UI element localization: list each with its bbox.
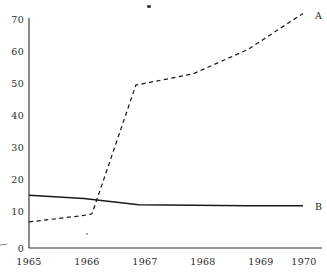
chart-canvas — [0, 0, 327, 274]
y-tick-label-50: 50 — [2, 78, 24, 89]
series-b-line — [29, 195, 303, 205]
line-chart: 70 60 50 40 30 20 10 0 1965 1966 1967 19… — [0, 0, 327, 274]
x-tick-label-1965: 1965 — [9, 256, 49, 267]
y-tick-label-40: 40 — [2, 110, 24, 121]
x-tick-label-1970: 1970 — [284, 256, 324, 267]
x-tick-label-1967: 1967 — [125, 256, 165, 267]
x-tick-label-1968: 1968 — [183, 256, 223, 267]
x-tick-label-1969: 1969 — [241, 256, 281, 267]
series-b-label: B — [315, 201, 322, 212]
y-tick-label-60: 60 — [2, 46, 24, 57]
y-tick-label-20: 20 — [2, 174, 24, 185]
y-tick-label-30: 30 — [2, 142, 24, 153]
y-tick-label-0: 0 — [2, 243, 24, 254]
x-tick-label-1966: 1966 — [67, 256, 107, 267]
series-a-label: A — [315, 10, 322, 21]
y-tick-label-70: 70 — [2, 14, 24, 25]
scan-speck-icon — [86, 233, 88, 235]
series-a-line — [29, 13, 303, 221]
y-tick-label-10: 10 — [2, 206, 24, 217]
scan-speck-icon — [147, 5, 151, 8]
